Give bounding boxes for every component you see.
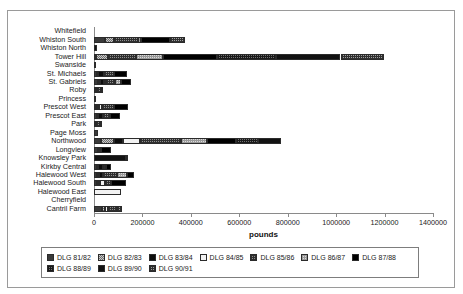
category-label: Prescot East: [45, 112, 86, 119]
axis-tick: [433, 213, 434, 217]
legend-label: DLG 90/91: [159, 265, 193, 272]
legend-item: DLG 81/82: [47, 254, 91, 261]
bar-segment: [101, 147, 111, 153]
bar-segment: [94, 37, 105, 43]
category-label: Swanside: [55, 61, 86, 68]
category-label: Prescot West: [43, 103, 86, 110]
bar-row: [94, 172, 433, 178]
category-label: Roby: [69, 86, 86, 93]
legend-item: DLG 84/85: [200, 254, 244, 261]
bar-segment: [96, 54, 107, 60]
category-label: Cherryfield: [51, 196, 86, 203]
bar-row: [94, 87, 433, 93]
legend-label: DLG 81/82: [57, 254, 91, 261]
bar-row: [94, 96, 433, 102]
legend-swatch-icon: [250, 254, 257, 261]
bar-segment: [276, 54, 340, 60]
category-label: Whitefield: [54, 27, 86, 34]
axis-tick: [239, 213, 240, 217]
bar-segment: [236, 138, 258, 144]
plot-area: [94, 27, 433, 213]
bar-row: [94, 180, 433, 186]
bar-segment: [94, 155, 126, 161]
legend-swatch-icon: [149, 254, 156, 261]
bar-row: [94, 79, 433, 85]
bar-segment: [127, 172, 134, 178]
category-label: St. Michaels: [47, 70, 86, 77]
legend-row-1: DLG 81/82DLG 82/83DLG 83/84DLG 84/85DLG …: [47, 252, 413, 263]
category-axis-labels: WhitefieldWhiston SouthWhiston NorthTowe…: [8, 27, 90, 213]
axis-tick: [94, 213, 95, 217]
bar-segment: [104, 71, 114, 77]
legend-swatch-icon: [47, 265, 54, 272]
bar-segment: [108, 206, 117, 212]
bar-segment: [123, 138, 140, 144]
bar-segment: [217, 54, 276, 60]
bar-row: [94, 138, 433, 144]
axis-tick: [336, 213, 337, 217]
legend-item: DLG 83/84: [149, 254, 193, 261]
legend-label: DLG 83/84: [159, 254, 193, 261]
legend-label: DLG 85/86: [260, 254, 294, 261]
bar-segment: [108, 54, 137, 60]
chart-container: WhitefieldWhiston SouthWhiston NorthTowe…: [7, 10, 455, 288]
category-label: Knowsley Park: [38, 154, 86, 161]
bar-segment: [94, 189, 121, 195]
bar-row: [94, 147, 433, 153]
bar-segment: [121, 79, 131, 85]
bar-segment: [207, 138, 237, 144]
legend-item: DLG 82/83: [98, 254, 142, 261]
bar-segment: [94, 206, 102, 212]
axis-tick: [191, 213, 192, 217]
bar-segment: [141, 37, 170, 43]
bar-segment: [181, 138, 207, 144]
legend-row-2: DLG 88/89DLG 89/90DLG 90/91: [47, 263, 413, 274]
legend-swatch-icon: [149, 265, 156, 272]
legend-swatch-icon: [301, 254, 308, 261]
bar-row: [94, 206, 433, 212]
bar-row: [94, 197, 433, 203]
bar-segment: [117, 206, 122, 212]
bar-segment: [114, 37, 137, 43]
legend-label: DLG 89/90: [108, 265, 142, 272]
bar-row: [94, 121, 433, 127]
bar-segment: [170, 37, 185, 43]
category-label: Whiston North: [40, 44, 86, 51]
category-label: Page Moss: [50, 129, 86, 136]
legend-item: DLG 86/87: [301, 254, 345, 261]
legend-label: DLG 86/87: [311, 254, 345, 261]
category-label: Princess: [58, 95, 86, 102]
bar-segment: [136, 54, 163, 60]
category-label: Cantril Farm: [46, 205, 86, 212]
bar-segment: [103, 172, 117, 178]
x-axis-title: pounds: [94, 230, 433, 239]
bar-segment: [101, 138, 115, 144]
category-label: Northwood: [51, 137, 86, 144]
axis-tick: [385, 213, 386, 217]
category-label: Kirkby Central: [41, 163, 86, 170]
legend-label: DLG 87/88: [362, 254, 396, 261]
bar-row: [94, 37, 433, 43]
legend-item: DLG 85/86: [250, 254, 294, 261]
bar-row: [94, 54, 433, 60]
bar-row: [94, 113, 433, 119]
bar-segment: [114, 71, 128, 77]
legend-item: DLG 87/88: [352, 254, 396, 261]
category-label: Park: [71, 120, 86, 127]
value-axis-line: [94, 213, 433, 214]
bar-row: [94, 28, 433, 34]
legend-item: DLG 90/91: [149, 265, 193, 272]
bar-segment: [94, 45, 97, 51]
legend-swatch-icon: [98, 265, 105, 272]
bar-row: [94, 164, 433, 170]
legend-swatch-icon: [47, 254, 54, 261]
bar-segment: [106, 164, 111, 170]
bar-segment: [94, 96, 96, 102]
bar-segment: [106, 79, 115, 85]
category-label: Halewood West: [36, 171, 86, 178]
category-label: Halewood South: [33, 179, 86, 186]
bar-segment: [117, 172, 127, 178]
bar-segment: [258, 138, 282, 144]
legend-swatch-icon: [98, 254, 105, 261]
legend-swatch-icon: [352, 254, 359, 261]
